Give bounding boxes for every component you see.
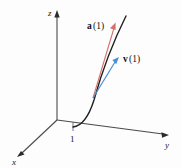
z-axis-arrow-icon [54,10,59,18]
acceleration-vector-arrow-icon [110,23,116,30]
y-axis-arrow-icon [161,132,169,137]
velocity-vector-label-argument: (1) [129,54,140,65]
x-axis-line [22,120,57,153]
acceleration-vector-label-argument: (1) [93,21,104,32]
velocity-vector-label: v (1) [123,54,140,65]
acceleration-vector-line [93,28,114,98]
z-axis [54,10,59,120]
acceleration-vector [93,23,116,99]
velocity-vector-arrow-icon [112,57,119,64]
vector-calculus-figure: z y x 1 a (1) v (1) [0,0,181,168]
x-axis [17,120,57,157]
y-axis-label: y [164,140,169,150]
x-axis-label: x [11,157,16,167]
z-axis-label: z [47,8,52,18]
y-axis-tick-label: 1 [70,134,75,144]
acceleration-vector-label-symbol: a [87,21,92,31]
velocity-vector-label-symbol: v [123,54,128,64]
axes-group [17,10,169,157]
space-curve [73,16,126,127]
acceleration-vector-label: a (1) [87,21,104,32]
